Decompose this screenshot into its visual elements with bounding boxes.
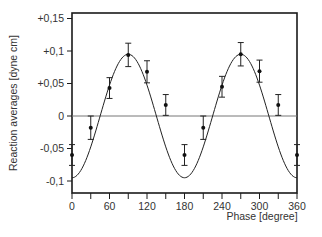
x-tick-label: 0 — [69, 200, 75, 212]
data-point — [258, 69, 262, 73]
y-tick-label: -0,05 — [40, 142, 64, 154]
data-point — [89, 126, 93, 130]
data-point — [201, 126, 205, 130]
data-point — [276, 103, 280, 107]
data-point — [70, 153, 74, 157]
y-axis-title: Reaction averages [dyne cm] — [7, 35, 19, 171]
plot-frame — [72, 13, 297, 193]
data-point — [164, 103, 168, 107]
y-tick-label: +0,05 — [37, 77, 64, 89]
y-tick-label: +0,1 — [43, 45, 64, 57]
x-tick-label: 60 — [104, 200, 116, 212]
data-point — [295, 153, 299, 157]
x-axis-title: Phase [degree] — [226, 210, 297, 222]
data-point — [220, 85, 224, 89]
data-point — [126, 53, 130, 57]
data-point — [239, 52, 243, 56]
y-tick-label: -0,1 — [46, 175, 64, 187]
chart: +0,15+0,1+0,050-0,05-0,10601201802403003… — [0, 0, 322, 237]
plot-area: +0,15+0,1+0,050-0,05-0,10601201802403003… — [37, 12, 305, 212]
y-tick-label: 0 — [58, 110, 64, 122]
y-tick-label: +0,15 — [37, 12, 64, 24]
data-point — [145, 70, 149, 74]
x-tick-label: 120 — [138, 200, 156, 212]
data-point — [108, 86, 112, 90]
x-tick-label: 180 — [176, 200, 194, 212]
data-point — [183, 153, 187, 157]
